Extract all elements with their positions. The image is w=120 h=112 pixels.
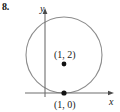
x-axis-arrow-icon [108,91,114,96]
tangent-point-marker [61,90,66,95]
center-point-marker [62,62,67,67]
center-point-label: (1, 2) [54,49,76,60]
geometry-figure: 8. y x (1, 2) (1, 0) [0,0,120,112]
tangent-point-label: (1, 0) [54,99,76,110]
x-axis-label: x [109,97,113,107]
y-axis-label: y [40,4,44,14]
